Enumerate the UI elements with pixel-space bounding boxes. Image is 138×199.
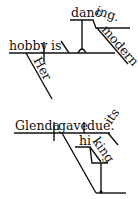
gerund-platform [70,20,130,28]
word-ing: ing. [94,3,121,25]
word-glenda: Glenda [15,118,60,133]
word-gave: gave [58,118,88,133]
diagram-bottom: Glenda gave due. its hi king [14,105,126,193]
word-hobby: hobby [9,38,49,53]
diagram-top: hobby is danc ing. modern Her [9,3,138,99]
modifier-line-its [108,133,118,145]
word-modern: modern [99,22,138,69]
word-is: is [51,38,61,53]
complement-slash [61,41,69,53]
sentence-diagrams: hobby is danc ing. modern Her Glenda gav… [0,0,138,199]
word-hi: hi [79,133,91,148]
stilt-dot [99,190,102,193]
